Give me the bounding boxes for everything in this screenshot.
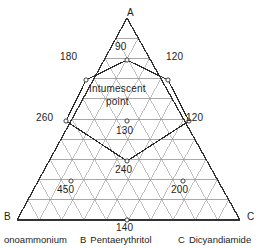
caption-item-c: CDicyandiamide xyxy=(178,234,251,245)
data-point-value: 90 xyxy=(115,42,127,52)
data-point-value: 130 xyxy=(116,126,133,136)
caption: onoammonium BPentaerythritol CDicyandiam… xyxy=(0,234,260,248)
caption-key-c: C xyxy=(178,234,185,245)
data-point-value: 240 xyxy=(115,165,132,175)
ternary-diagram-figure: 90180120130260120240450200140 A B C Intu… xyxy=(0,0,260,248)
data-point-marker xyxy=(125,58,129,62)
data-point-value: 450 xyxy=(57,185,74,195)
caption-name-a: onoammonium xyxy=(4,234,67,245)
caption-item-a: onoammonium xyxy=(0,234,67,245)
data-point-value: 260 xyxy=(36,113,53,123)
data-point-marker xyxy=(125,119,129,123)
data-point-value: 200 xyxy=(171,185,188,195)
vertex-label-b: B xyxy=(4,212,11,222)
data-point-marker xyxy=(64,119,68,123)
data-point-marker xyxy=(84,78,88,82)
data-point-value: 180 xyxy=(60,52,77,62)
data-point-marker xyxy=(69,179,73,183)
ternary-diagram-svg xyxy=(0,0,260,248)
caption-name-c: Dicyandiamide xyxy=(189,234,251,245)
data-point-marker xyxy=(181,179,185,183)
intumescent-point-label-line1: Intumescent xyxy=(89,84,146,94)
data-point-value: 120 xyxy=(166,52,183,62)
caption-item-b: BPentaerythritol xyxy=(80,234,152,245)
data-point-marker xyxy=(125,159,129,163)
data-point-value: 120 xyxy=(186,113,203,123)
data-point-value: 140 xyxy=(116,223,133,233)
vertex-label-c: C xyxy=(247,212,254,222)
vertex-label-a: A xyxy=(127,8,134,18)
intumescent-point-label-line2: point xyxy=(106,97,129,107)
data-point-marker xyxy=(166,78,170,82)
caption-key-b: B xyxy=(80,234,86,245)
caption-name-b: Pentaerythritol xyxy=(90,234,151,245)
contour-path xyxy=(66,60,189,161)
